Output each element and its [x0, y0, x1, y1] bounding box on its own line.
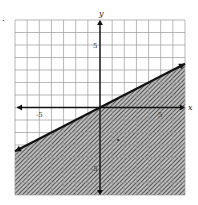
x-tick-label-neg5: -5	[36, 112, 43, 119]
x-tick-label-5: 5	[158, 112, 162, 119]
y-axis-label: y	[99, 10, 104, 18]
test-point	[117, 139, 119, 141]
y-tick-label-neg5: -5	[91, 166, 98, 173]
inequality-graph	[0, 0, 198, 205]
x-axis-label: x	[188, 104, 193, 112]
y-tick-label-5: 5	[93, 43, 97, 50]
problem-number: .	[2, 14, 5, 23]
